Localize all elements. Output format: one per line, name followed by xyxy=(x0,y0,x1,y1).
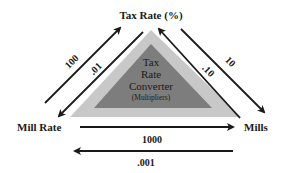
center-label-line4: (Multipliers) xyxy=(132,93,171,102)
center-label-line1: Tax xyxy=(143,56,160,68)
node-tax-rate: Tax Rate (%) xyxy=(119,9,182,22)
center-label-line2: Rate xyxy=(141,68,161,80)
node-mill-rate: Mill Rate xyxy=(17,121,61,133)
edge-label-001: .001 xyxy=(137,157,155,168)
edge-label-100: 100 xyxy=(62,52,80,70)
center-label-line3: Converter xyxy=(129,80,173,92)
tax-rate-converter-diagram: Tax Rate Converter (Multipliers) Tax Rat… xyxy=(0,0,285,173)
edge-label-10: 10 xyxy=(223,54,238,69)
edge-label-1000: 1000 xyxy=(142,134,162,145)
node-mills: Mills xyxy=(244,121,269,133)
